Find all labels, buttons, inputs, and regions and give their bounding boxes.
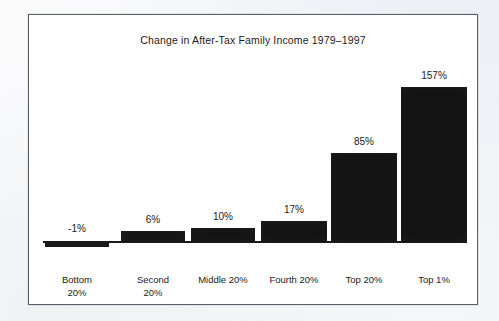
plot-area: -1% Bottom 20% 6% Second 20% 10% Middle …	[43, 15, 467, 306]
category-label-middle-20: Middle 20%	[187, 274, 259, 287]
category-label-top-1: Top 1%	[397, 274, 471, 287]
bar-top-20	[331, 153, 397, 242]
bar-fourth-20	[261, 221, 327, 242]
bar-value-label-middle-20: 10%	[191, 211, 255, 222]
bar-second-20	[121, 231, 185, 242]
category-label-fourth-20: Fourth 20%	[257, 274, 331, 287]
bar-bottom-20	[45, 242, 109, 247]
category-label-second-20: Second 20%	[117, 274, 189, 299]
bar-value-label-top-1: 157%	[401, 70, 467, 81]
bar-value-label-bottom-20: -1%	[45, 223, 109, 234]
category-label-top-20: Top 20%	[327, 274, 401, 287]
category-label-bottom-20: Bottom 20%	[41, 274, 113, 299]
bar-middle-20	[191, 228, 255, 242]
bar-value-label-second-20: 6%	[121, 214, 185, 225]
chart-frame: Change in After-Tax Family Income 1979–1…	[28, 14, 478, 305]
bar-top-1	[401, 87, 467, 242]
bar-value-label-top-20: 85%	[331, 136, 397, 147]
bar-value-label-fourth-20: 17%	[261, 204, 327, 215]
